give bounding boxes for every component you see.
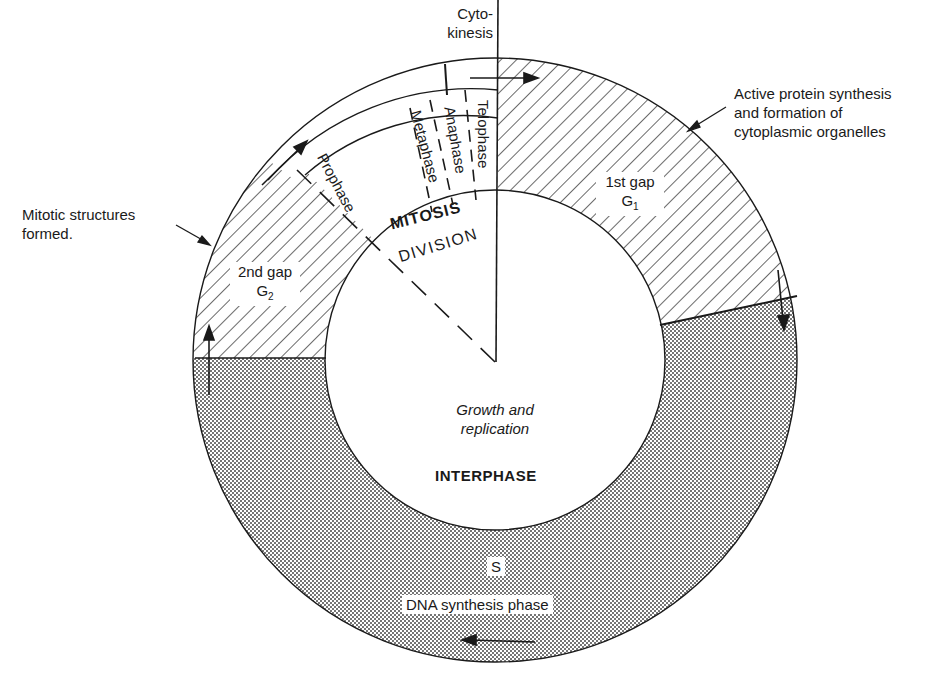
dna-synthesis-label: DNA synthesis phase [402,595,553,614]
telophase-label: Telophase [474,100,493,168]
g2-label: 2nd gap G2 [230,262,300,306]
cytokinesis-label: Cyto- kinesis [445,4,493,42]
g2-annotation: Mitotic structures formed. [22,205,135,243]
interphase-label: INTERPHASE [435,466,537,485]
g2-symbol: G2 [234,281,296,306]
growth-line1: Growth and [440,400,550,419]
g1-annotation: Active protein synthesis and formation o… [734,84,892,141]
s-symbol-label: S [487,557,505,576]
g1-note-line2: and formation of [734,103,892,122]
g1-line1: 1st gap [600,172,660,191]
growth-line2: replication [440,419,550,438]
cytokinesis-line1: Cyto- [445,4,493,23]
g2-note-line1: Mitotic structures [22,205,135,224]
growth-replication-label: Growth and replication [440,400,550,438]
g1-symbol: G1 [600,191,660,216]
g1-label: 1st gap G1 [596,172,664,216]
g2-line1: 2nd gap [234,262,296,281]
cytokinesis-line2: kinesis [445,23,493,42]
cell-cycle-diagram: Cyto- kinesis Prophase Metaphase Anaphas… [0,0,951,685]
g1-note-line1: Active protein synthesis [734,84,892,103]
g1-note-line3: cytoplasmic organelles [734,122,892,141]
g2-note-line2: formed. [22,224,135,243]
